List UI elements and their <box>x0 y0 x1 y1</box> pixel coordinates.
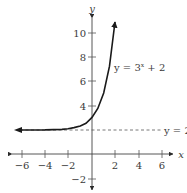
y-axis-label: y <box>88 3 95 14</box>
x-tick-label: 2 <box>112 160 118 171</box>
curve-label: y = 3x + 2 <box>113 61 165 73</box>
asymptote-label: y = 2 <box>163 125 187 136</box>
y-tick-label: 8 <box>80 52 86 63</box>
x-tick-label: 6 <box>159 160 165 171</box>
y-tick-label: 4 <box>80 101 86 112</box>
exponential-graph: −6 −4 −2 2 4 6 10 8 6 4 −2 y x y = 3x + … <box>0 0 187 193</box>
x-tick-label: 4 <box>136 160 142 171</box>
y-tick-label: −2 <box>71 174 86 185</box>
x-tick-label: −2 <box>61 160 76 171</box>
curve-left-arrow-icon <box>14 127 22 133</box>
y-tick-label: 10 <box>73 28 86 39</box>
x-tick-label: −6 <box>15 160 30 171</box>
x-tick-label: −4 <box>38 160 53 171</box>
x-axis-label: x <box>178 149 184 160</box>
exponential-curve <box>17 22 115 130</box>
y-tick-label: 6 <box>80 76 86 87</box>
